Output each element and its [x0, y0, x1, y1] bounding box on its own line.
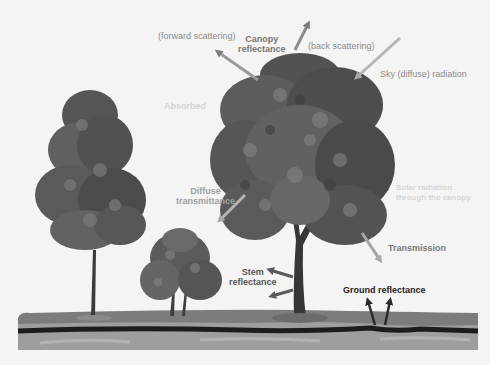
- sky-radiation-label: Sky (diffuse) radiation: [380, 69, 467, 79]
- canopy-reflectance-label: Canopy reflectance: [238, 34, 286, 54]
- stem-reflectance-label: Stem reflectance: [229, 267, 277, 287]
- forward-scattering-arrow: [218, 52, 258, 80]
- ground-reflectance-label: Ground reflectance: [343, 285, 426, 295]
- back-scattering-label: (back scattering): [308, 41, 375, 51]
- canopy-reflectance-arrow: [295, 24, 308, 50]
- forward-scattering-label: (forward scattering): [158, 31, 236, 41]
- soil-horizon-line: [18, 328, 478, 331]
- stem-reflectance-arrow-lower: [272, 290, 293, 296]
- ghost-transmitted-label: Solar radiation through the canopy: [396, 183, 471, 203]
- transmission-label: Transmission: [388, 243, 446, 253]
- ghost-absorbed-label: Absorbed: [164, 101, 206, 111]
- diffuse-transmittance-label: Diffuse transmittance: [176, 186, 235, 206]
- tall-narrow-tree: [35, 90, 146, 321]
- shrub: [140, 228, 222, 316]
